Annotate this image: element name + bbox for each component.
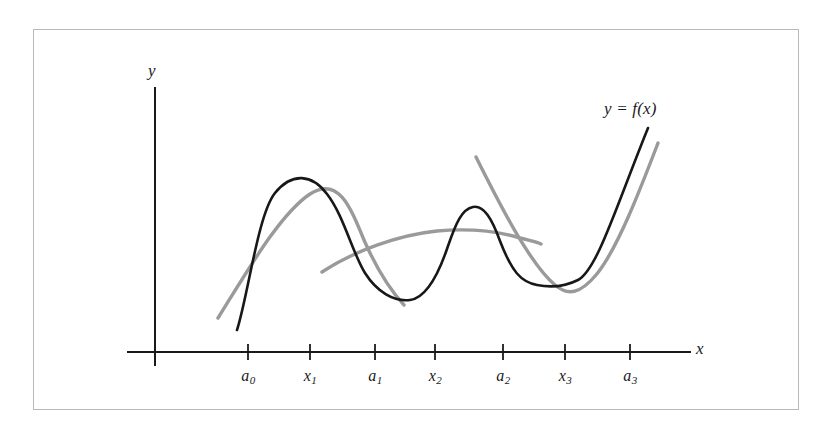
tick-label-a3: a3 bbox=[623, 368, 637, 384]
tick-label-a0: a0 bbox=[241, 368, 255, 384]
figure-root: y x y = f(x) a0x1a1x2a2x3a3 bbox=[0, 0, 835, 434]
tick-label-a2: a2 bbox=[496, 368, 510, 384]
figure-graphics bbox=[0, 0, 835, 434]
x-axis-label: x bbox=[696, 340, 704, 357]
tick-label-a1: a1 bbox=[368, 368, 382, 384]
y-axis-label: y bbox=[148, 62, 156, 79]
tick-label-x1: x1 bbox=[304, 368, 317, 384]
tick-label-x2: x2 bbox=[429, 368, 442, 384]
curve-p3 bbox=[476, 143, 658, 292]
curve-equation-label: y = f(x) bbox=[604, 100, 657, 117]
axes-group bbox=[128, 88, 690, 365]
tick-label-x3: x3 bbox=[559, 368, 572, 384]
curves-group bbox=[218, 128, 658, 330]
